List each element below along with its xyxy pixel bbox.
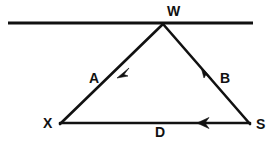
vertex-label-x: X xyxy=(43,116,52,130)
vertex-label-w: W xyxy=(167,4,180,18)
vertex-label-s: S xyxy=(256,117,265,131)
geometry-canvas xyxy=(0,0,277,142)
segment-a-arrowhead xyxy=(117,68,129,78)
segment-label-b: B xyxy=(220,71,230,85)
segment-label-a: A xyxy=(89,71,99,85)
segment-a-line xyxy=(60,24,163,124)
segment-b-arrowhead xyxy=(201,67,212,79)
segment-label-d: D xyxy=(155,125,165,139)
geometry-diagram: W X S A B D xyxy=(0,0,277,142)
